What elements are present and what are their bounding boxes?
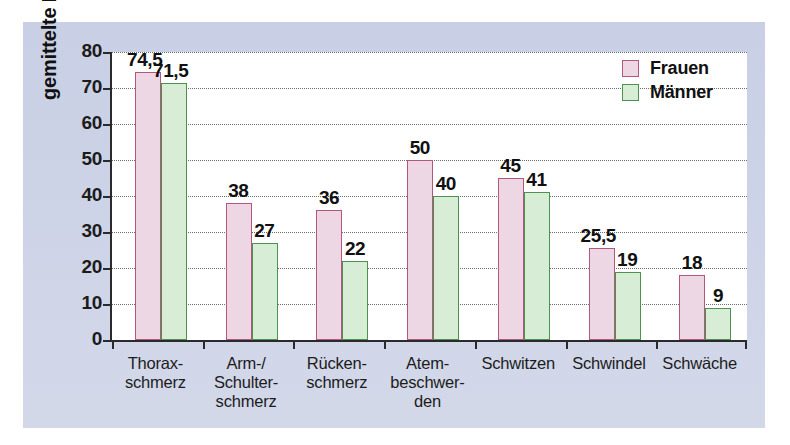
category-label-line: schmerz [110,373,201,392]
legend-label-maenner: Männer [650,82,713,103]
bar-frauen[interactable] [407,160,433,340]
bar-value-label: 41 [526,169,546,191]
x-axis-tick-mark [566,340,568,349]
bar-value-label: 18 [682,252,702,274]
bar-value-label: 45 [500,155,520,177]
category-label-line: schmerz [201,392,292,411]
y-axis-tick-mark [103,160,110,162]
bar-value-label: 9 [713,285,723,307]
y-axis-tick-mark [103,88,110,90]
y-axis-tick-mark [103,340,110,342]
category-label-line: Arm-/ [201,354,292,373]
category-label-line: beschwer- [382,373,473,392]
category-label-line: schmerz [291,373,382,392]
bar-value-label: 36 [319,187,339,209]
y-axis-tick-label: 20 [56,256,102,278]
x-axis-category-label: Schwindel [564,354,655,373]
bar-frauen[interactable] [226,203,252,340]
bar-maenner[interactable] [524,192,550,340]
y-axis-tick-label: 10 [56,292,102,314]
x-axis-tick-mark [203,340,205,349]
bar-value-label: 71,5 [153,60,188,82]
bar-maenner[interactable] [705,308,731,340]
x-axis-tick-mark [112,340,114,349]
x-axis-category-label: Schwäche [654,354,745,373]
category-label-line: Schwitzen [473,354,564,373]
y-axis-tick-mark [103,232,110,234]
y-axis-tick-label: 0 [56,328,102,350]
category-label-line: Schwindel [564,354,655,373]
y-axis-tick-label: 70 [56,76,102,98]
bar-frauen[interactable] [316,210,342,340]
gridline [112,124,747,125]
bar-value-label: 22 [345,238,365,260]
y-axis-tick-label: 80 [56,40,102,62]
category-label-line: Schwäche [654,354,745,373]
y-axis-tick-label: 50 [56,148,102,170]
bar-value-label: 27 [254,220,274,242]
legend-item-maenner[interactable]: Männer [622,80,752,104]
legend-swatch-maenner-icon [622,84,639,101]
category-label-line: Rücken- [291,354,382,373]
bar-maenner[interactable] [615,272,641,340]
y-axis-tick-mark [103,124,110,126]
legend-label-frauen: Frauen [650,58,709,79]
legend-item-frauen[interactable]: Frauen [622,56,752,80]
x-axis-tick-mark [745,340,747,349]
x-axis-category-label: Rücken-schmerz [291,354,382,392]
y-axis-tick-mark [103,268,110,270]
category-label-line: Atem- [382,354,473,373]
bar-maenner[interactable] [161,83,187,340]
bar-frauen[interactable] [135,72,161,340]
x-axis-tick-mark [656,340,658,349]
gridline [112,52,747,53]
x-axis-category-label: Schwitzen [473,354,564,373]
bar-value-label: 40 [436,173,456,195]
x-axis-category-label: Atem-beschwer-den [382,354,473,411]
bar-maenner[interactable] [252,243,278,340]
bar-maenner[interactable] [433,196,459,340]
y-axis-tick-label: 30 [56,220,102,242]
bar-value-label: 38 [228,180,248,202]
y-axis-tick-mark [103,196,110,198]
x-axis-tick-mark [293,340,295,349]
y-axis-tick-label: 40 [56,184,102,206]
chart-figure: gemittelte Häufigkeit (%) 01020304050607… [0,0,790,445]
category-label-line: den [382,392,473,411]
x-axis-category-label: Thorax-schmerz [110,354,201,392]
y-axis-label-container: gemittelte Häufigkeit (%) [40,60,70,360]
legend-swatch-frauen-icon [622,60,639,77]
chart-legend: Frauen Männer [622,56,752,104]
x-axis-category-label: Arm-/Schulter-schmerz [201,354,292,411]
y-axis-tick-mark [103,52,110,54]
category-label-line: Thorax- [110,354,201,373]
bar-value-label: 25,5 [581,225,616,247]
x-axis-tick-mark [384,340,386,349]
bar-value-label: 50 [410,137,430,159]
bar-maenner[interactable] [342,261,368,340]
bar-frauen[interactable] [589,248,615,340]
bar-value-label: 19 [617,249,637,271]
bar-frauen[interactable] [679,275,705,340]
y-axis-tick-label: 60 [56,112,102,134]
x-axis-tick-mark [475,340,477,349]
y-axis-tick-mark [103,304,110,306]
bar-frauen[interactable] [498,178,524,340]
category-label-line: Schulter- [201,373,292,392]
